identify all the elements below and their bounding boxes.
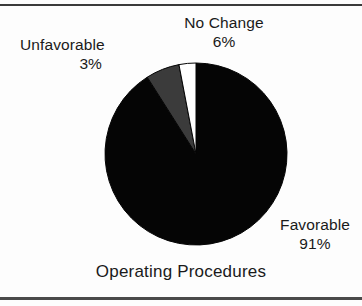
slice-label-unfavorable-name: Unfavorable xyxy=(20,35,110,54)
slice-label-unfavorable: Unfavorable 3% xyxy=(20,35,110,73)
pie-chart-figure: Unfavorable 3% No Change 6% Favorable 91… xyxy=(0,0,362,306)
slice-label-no-change: No Change 6% xyxy=(168,13,280,51)
pie-slices-group xyxy=(105,63,287,245)
slice-label-no-change-name: No Change xyxy=(184,14,263,31)
top-divider-rule xyxy=(0,4,362,6)
pie-graphic xyxy=(104,62,288,246)
slice-label-favorable-name: Favorable xyxy=(280,216,350,233)
slice-label-unfavorable-value: 3% xyxy=(20,54,110,73)
pie-svg xyxy=(104,62,288,246)
chart-title: Operating Procedures xyxy=(0,262,362,282)
bottom-divider-rule xyxy=(0,297,362,300)
slice-label-no-change-value: 6% xyxy=(168,32,280,51)
